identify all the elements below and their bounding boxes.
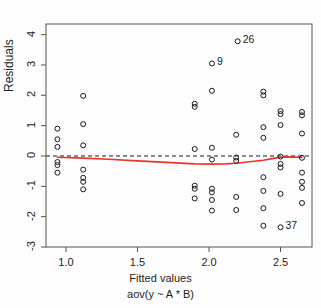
data-point [278, 165, 283, 170]
data-point [209, 145, 214, 150]
data-point [299, 170, 304, 175]
data-point [209, 190, 214, 195]
y-tick-label: -2 [25, 207, 37, 225]
outlier-label: 37 [286, 219, 298, 231]
data-point [81, 122, 86, 127]
data-point [209, 157, 214, 162]
x-axis-title-line1: Fitted values [0, 272, 321, 284]
data-point [299, 201, 304, 206]
data-point [261, 125, 266, 130]
data-point [261, 206, 266, 211]
data-point [261, 175, 266, 180]
y-tick-label: 0 [25, 146, 37, 164]
outlier-label: 26 [243, 33, 255, 45]
data-point [235, 39, 240, 44]
data-point [261, 93, 266, 98]
y-axis-title: Residuals [2, 39, 16, 92]
y-tick-label: -3 [25, 237, 37, 255]
data-point [234, 207, 239, 212]
data-point [55, 126, 60, 131]
data-point [261, 188, 266, 193]
data-point [55, 144, 60, 149]
data-point [209, 208, 214, 213]
data-point [234, 132, 239, 137]
x-axis-title-line2: aov(y ~ A * B) [0, 288, 321, 300]
x-tick-label: 2.5 [263, 256, 299, 268]
data-point [192, 196, 197, 201]
data-point [278, 225, 283, 230]
data-point [81, 93, 86, 98]
data-point [192, 186, 197, 191]
data-point [234, 194, 239, 199]
x-tick-label: 1.0 [48, 256, 84, 268]
data-point [209, 197, 214, 202]
lowess-smoother-line [57, 157, 302, 164]
y-tick-label: 2 [25, 85, 37, 103]
data-point [209, 61, 214, 66]
residual-plot-figure: Residuals Fitted values aov(y ~ A * B) 4… [0, 0, 321, 308]
outlier-label: 9 [217, 55, 223, 67]
data-point [209, 88, 214, 93]
y-tick-label: -1 [25, 176, 37, 194]
plot-frame [46, 24, 312, 247]
data-point [299, 113, 304, 118]
data-point [261, 223, 266, 228]
data-point [261, 135, 266, 140]
data-point [81, 187, 86, 192]
y-tick-label: 1 [25, 116, 37, 134]
y-tick-label: 4 [25, 25, 37, 43]
data-point [192, 147, 197, 152]
y-tick-label: 3 [25, 55, 37, 73]
data-point [299, 131, 304, 136]
data-point [81, 167, 86, 172]
data-point [55, 137, 60, 142]
x-tick-label: 2.0 [191, 256, 227, 268]
data-point [299, 185, 304, 190]
data-point [299, 179, 304, 184]
data-point [278, 123, 283, 128]
data-point [192, 104, 197, 109]
data-point [278, 112, 283, 117]
data-point [55, 163, 60, 168]
x-tick-label: 1.5 [120, 256, 156, 268]
data-point [81, 143, 86, 148]
data-point [278, 191, 283, 196]
data-point [55, 170, 60, 175]
